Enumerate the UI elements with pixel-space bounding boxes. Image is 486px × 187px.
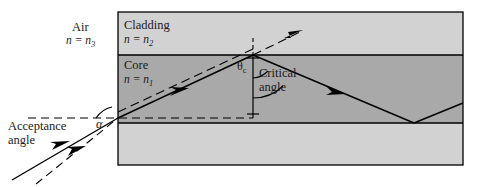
cladding-bottom-region	[118, 123, 463, 165]
core-refractive-index-label: n = n1	[124, 73, 153, 89]
critical-angle-symbol: θc	[237, 60, 247, 76]
critical-angle-label-line1: Critical	[259, 66, 297, 80]
critical-angle-label: Criticalangle	[259, 66, 297, 94]
core-index-text: n = n	[124, 73, 149, 85]
critical-angle-label-line2: angle	[259, 80, 297, 94]
arrowhead-incident-dashed	[66, 146, 86, 156]
cladding-region-label: Cladding	[124, 18, 170, 32]
cladding-index-text: n = n	[124, 33, 149, 45]
core-region-label: Core	[124, 58, 148, 72]
cladding-refractive-index-label: n = n2	[124, 33, 153, 49]
acceptance-angle-label-line1: Acceptance	[8, 119, 66, 133]
theta-subscript: c	[243, 65, 247, 75]
acceptance-angle-label-line2: angle	[8, 133, 66, 147]
acceptance-angle-symbol: α	[96, 117, 103, 131]
optical-fiber-diagram: Air n = n3 Cladding n = n2 Core n = n1 θ…	[0, 0, 486, 187]
acceptance-angle-label: Acceptanceangle	[8, 119, 66, 147]
air-region-label: Air	[72, 20, 89, 34]
air-refractive-index-label: n = n3	[66, 34, 95, 50]
core-index-subscript: 1	[149, 78, 153, 88]
air-index-text: n = n	[66, 34, 91, 46]
cladding-index-subscript: 2	[149, 38, 153, 48]
air-index-subscript: 3	[91, 39, 95, 49]
